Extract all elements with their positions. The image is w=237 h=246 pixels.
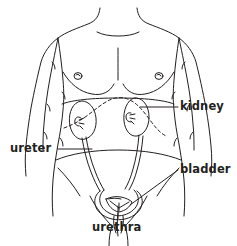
ureter-right-tube bbox=[125, 135, 143, 190]
nipple-right bbox=[155, 73, 163, 80]
kidney-left-shape bbox=[69, 101, 96, 139]
label-urethra: urethra bbox=[92, 222, 141, 234]
label-ureter: ureter bbox=[10, 143, 51, 155]
label-kidney: kidney bbox=[180, 101, 224, 113]
label-bladder: bladder bbox=[180, 164, 231, 176]
anatomy-diagram: kidney ureter bladder urethra bbox=[0, 0, 237, 246]
leader-line-bladder bbox=[130, 170, 178, 205]
ureter-left-tube bbox=[82, 137, 104, 191]
anatomy-illustration bbox=[0, 0, 237, 246]
nipple-left bbox=[74, 73, 82, 80]
